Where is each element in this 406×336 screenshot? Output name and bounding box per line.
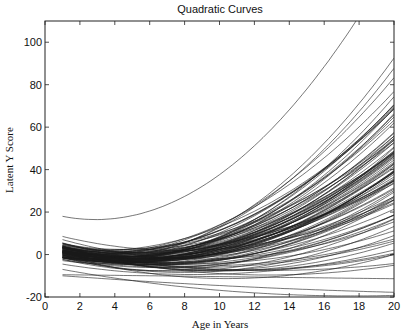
x-tick-label: 6 <box>147 300 153 312</box>
curve-line <box>63 106 395 253</box>
y-tick-label: 0 <box>36 249 42 261</box>
curve-line <box>63 275 395 279</box>
x-tick-label: 0 <box>42 300 48 312</box>
chart-title: Quadratic Curves <box>177 3 263 15</box>
y-axis-label: Latent Y Score <box>3 127 15 193</box>
x-axis-ticks: 02468101214161820 <box>42 21 400 312</box>
curve-lines <box>63 0 395 296</box>
quadratic-curves-chart: Quadratic Curves 02468101214161820 -2002… <box>0 0 406 336</box>
x-tick-label: 8 <box>182 300 188 312</box>
x-tick-label: 20 <box>388 300 400 312</box>
y-tick-label: -20 <box>26 291 42 303</box>
y-tick-label: 20 <box>30 206 42 218</box>
x-tick-label: 4 <box>112 300 118 312</box>
x-tick-label: 18 <box>353 300 365 312</box>
curve-line <box>63 78 395 255</box>
curve-line <box>63 171 395 260</box>
x-tick-label: 14 <box>283 300 295 312</box>
x-axis-label: Age in Years <box>192 318 249 330</box>
y-tick-label: 40 <box>30 164 42 176</box>
x-tick-label: 12 <box>248 300 260 312</box>
y-tick-label: 60 <box>30 121 42 133</box>
y-tick-label: 100 <box>24 36 42 48</box>
x-tick-label: 2 <box>77 300 83 312</box>
x-tick-label: 10 <box>213 300 225 312</box>
x-tick-label: 16 <box>318 300 330 312</box>
curve-line <box>63 269 395 296</box>
y-tick-label: 80 <box>30 79 42 91</box>
